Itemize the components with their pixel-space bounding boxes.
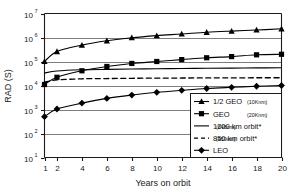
data-point-marker <box>229 54 234 59</box>
data-point-marker <box>204 55 209 60</box>
x-tick-label: 10 <box>153 164 162 173</box>
x-tick-label: 4 <box>80 164 85 173</box>
data-point-marker <box>179 57 184 62</box>
x-tick-label: 20 <box>278 164 287 173</box>
y-tick-base: 10 <box>24 35 33 44</box>
legend-label: 1/2 GEO <box>213 97 242 106</box>
y-tick-base: 10 <box>24 83 33 92</box>
y-tick-base: 10 <box>24 155 33 164</box>
rad-vs-years-line-chart: 101102103104105106107 12468101214161820 … <box>0 0 296 192</box>
x-tick-label: 6 <box>105 164 110 173</box>
x-tick-label: 14 <box>203 164 212 173</box>
y-tick-base: 10 <box>24 11 33 20</box>
chart-legend: 1/2 GEO(10Knm)GEO(20Knm)1200 km orbit*(6… <box>191 94 282 158</box>
x-tick-label: 1 <box>43 164 48 173</box>
x-tick-label: 2 <box>55 164 60 173</box>
legend-label: GEO <box>213 110 230 119</box>
y-tick-base: 10 <box>24 59 33 68</box>
legend-detail: (10Knm) <box>247 99 268 105</box>
x-axis-title: Years on orbit <box>135 178 191 188</box>
y-tick-exponent: 1 <box>34 152 37 158</box>
y-tick-exponent: 5 <box>34 56 37 62</box>
y-tick-exponent: 7 <box>34 8 37 14</box>
x-tick-label: 8 <box>130 164 135 173</box>
data-point-marker <box>254 52 259 57</box>
y-tick-exponent: 4 <box>34 80 37 86</box>
data-point-marker <box>129 61 134 66</box>
y-axis-title: RAD (S) <box>3 69 13 103</box>
legend-label: LEO <box>213 146 228 155</box>
chart-figure: 101102103104105106107 12468101214161820 … <box>0 0 296 192</box>
x-tick-label: 12 <box>178 164 187 173</box>
legend-detail: (459nm) <box>216 136 236 142</box>
x-tick-label: 18 <box>253 164 262 173</box>
y-tick-base: 10 <box>24 131 33 140</box>
x-tick-label: 16 <box>228 164 237 173</box>
data-point-marker <box>42 82 47 87</box>
y-tick-base: 10 <box>24 107 33 116</box>
y-tick-exponent: 3 <box>34 104 37 110</box>
y-tick-exponent: 2 <box>34 128 37 134</box>
data-point-marker <box>54 75 59 80</box>
legend-sample-marker <box>199 111 204 116</box>
data-point-marker <box>154 59 159 64</box>
legend-detail: (648nm) <box>216 124 236 130</box>
y-tick-exponent: 6 <box>34 32 37 38</box>
data-point-marker <box>79 68 84 73</box>
data-point-marker <box>279 52 284 57</box>
data-point-marker <box>104 64 109 69</box>
legend-detail: (20Knm) <box>247 112 268 118</box>
